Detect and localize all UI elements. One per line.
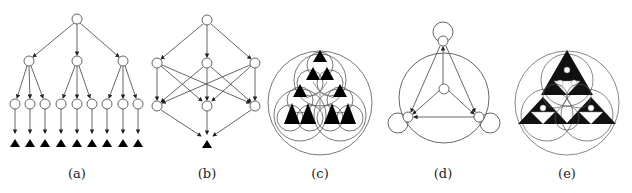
panel-a-label: (a) (68, 166, 86, 181)
panel-d-label: (d) (434, 166, 452, 181)
panel-b-label: (b) (198, 166, 216, 181)
panel-e-circle-packing-sierpinski-deep (515, 50, 619, 155)
panel-c-label: (c) (311, 166, 328, 181)
panel-e-label: (e) (558, 166, 576, 181)
figure-canvas (0, 0, 632, 193)
panel-b-layered-graph (152, 15, 260, 148)
panel-a-tree-diagram (10, 14, 143, 147)
panel-c-circle-packing-sierpinski (268, 50, 372, 155)
panel-d-directed-graph (388, 22, 500, 143)
